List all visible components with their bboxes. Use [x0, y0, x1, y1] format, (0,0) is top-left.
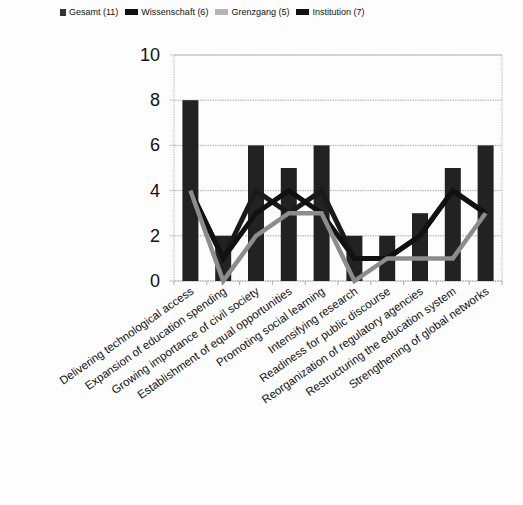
y-tick-label: 10 — [140, 45, 160, 65]
chart-plot: 0246810Delivering technological accessEx… — [0, 0, 523, 505]
y-tick-label: 2 — [150, 226, 160, 246]
y-tick-label: 4 — [150, 181, 160, 201]
y-tick-label: 6 — [150, 135, 160, 155]
y-tick-label: 0 — [150, 271, 160, 291]
y-tick-label: 8 — [150, 90, 160, 110]
bar-9 — [445, 168, 461, 281]
bar-4 — [281, 168, 297, 281]
bar-8 — [412, 213, 428, 281]
